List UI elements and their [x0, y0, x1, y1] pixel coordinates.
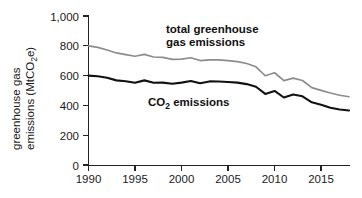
- chart-svg: 1,000 800 600 400 200 0 greenhouse gas e…: [0, 0, 362, 198]
- greenhouse-gas-emissions-chart: 1,000 800 600 400 200 0 greenhouse gas e…: [0, 0, 362, 198]
- x-tick-label-2015: 2015: [308, 173, 334, 185]
- x-axis-ticks: [89, 166, 322, 172]
- series-label-co2-post: emissions: [170, 96, 229, 108]
- series-label-co2-pre: CO: [148, 96, 165, 108]
- series-label-co2: CO2 emissions: [148, 96, 229, 111]
- x-tick-label-2010: 2010: [262, 173, 288, 185]
- y-axis-title-line2: emissions (MtCO2e): [24, 47, 39, 150]
- x-axis-tick-labels: 1990 1995 2000 2005 2010 2015: [76, 173, 334, 185]
- y-tick-label-400: 400: [60, 100, 79, 112]
- y-axis-title-group: greenhouse gas emissions (MtCO2e): [10, 47, 39, 150]
- y-tick-label-1000: 1,000: [50, 11, 79, 23]
- x-tick-label-2005: 2005: [215, 173, 241, 185]
- y-axis-group: 1,000 800 600 400 200 0: [50, 11, 88, 172]
- y-axis-tick-labels: 1,000 800 600 400 200 0: [50, 11, 79, 172]
- y-tick-label-200: 200: [60, 130, 79, 142]
- y-axis-title-unit-post: e): [24, 47, 36, 57]
- x-axis-group: 1990 1995 2000 2005 2010 2015: [76, 166, 350, 186]
- series-annotations-group: total greenhouse gas emissions CO2 emiss…: [148, 23, 259, 111]
- y-tick-label-0: 0: [73, 160, 79, 172]
- y-axis-ticks: [83, 16, 89, 165]
- y-tick-label-600: 600: [60, 70, 79, 82]
- y-tick-label-800: 800: [60, 40, 79, 52]
- x-tick-label-1995: 1995: [122, 173, 148, 185]
- y-axis-title-line1: greenhouse gas: [10, 67, 22, 150]
- x-tick-label-2000: 2000: [169, 173, 195, 185]
- series-label-total-line2: gas emissions: [166, 36, 245, 48]
- series-line-total-greenhouse-gas: [89, 46, 350, 97]
- series-label-total-line1: total greenhouse: [166, 23, 259, 35]
- y-axis-title-unit-pre: emissions (MtCO: [24, 62, 36, 150]
- x-tick-label-1990: 1990: [76, 173, 102, 185]
